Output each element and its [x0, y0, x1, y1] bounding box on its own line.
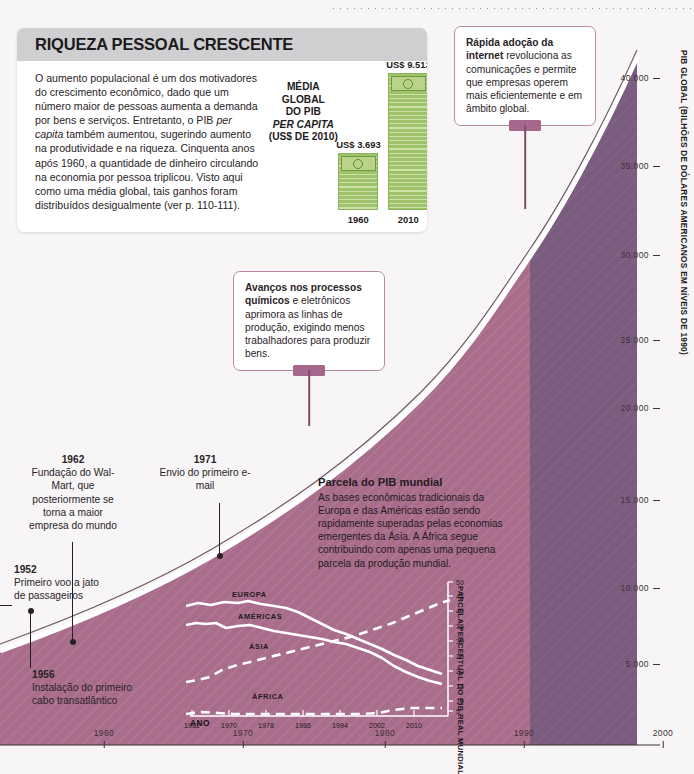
gdp-per-capita-bar-chart: MÉDIAGLOBALDO PIBPER CAPITA(US$ DE 2010)… — [258, 71, 415, 231]
bar-2010 — [388, 73, 427, 210]
inset-x-tick-2002: 2002 — [369, 721, 385, 730]
series-line-americas — [186, 623, 442, 684]
event-text: Envio do primeiro e-mail — [159, 467, 250, 491]
callout-chemical-text: Avanços nos processos químicos e eletrôn… — [245, 282, 370, 359]
callout-stem — [524, 125, 526, 209]
bar-chart-caption: MÉDIAGLOBALDO PIBPER CAPITA(US$ DE 2010) — [260, 81, 346, 144]
callout-stem — [308, 370, 310, 426]
inset-x-tick-1978: 1978 — [258, 721, 274, 730]
wealth-card: RIQUEZA PESSOAL CRESCENTE O aumento popu… — [17, 28, 427, 232]
inset-y-tick-50: 50 — [456, 579, 464, 586]
bar-label-2010: 2010 — [386, 214, 427, 225]
x-tick-1990: 1990 — [514, 728, 535, 748]
series-label-europa: EUROPA — [232, 590, 267, 599]
event-1956: 1956 Instalação do primeiro cabo transat… — [32, 668, 142, 708]
y-tick-30000: 30.000 — [621, 250, 660, 260]
inset-chart-svg — [186, 578, 486, 738]
event-text: Instalação do primeiro cabo transatlânti… — [32, 682, 132, 706]
inset-x-tick-1994: 1994 — [332, 721, 348, 730]
y-tick-10000: 10.000 — [621, 583, 660, 593]
series-label-americas: AMÉRICAS — [238, 612, 282, 621]
bar-label-1960: 1960 — [336, 214, 380, 225]
callout-chemical-processes: Avanços nos processos químicos e eletrôn… — [233, 271, 385, 371]
bar-value-1960: US$ 3.693 — [336, 139, 380, 150]
wealth-card-header: RIQUEZA PESSOAL CRESCENTE — [17, 28, 427, 61]
series-line-africa — [186, 708, 442, 714]
y-tick-40000: 40.000 — [621, 73, 660, 83]
y-tick-5000: 5.000 — [626, 659, 660, 669]
series-label-africa: ÁFRICA — [252, 692, 284, 701]
event-leader-line — [30, 611, 31, 668]
inset-chart-heading: Parcela do PIB mundial — [318, 476, 508, 489]
y-tick-20000: 20.000 — [621, 403, 660, 413]
event-1971: 1971 Envio do primeiro e-mail — [157, 453, 253, 493]
main-y-axis: 40.000 35.000 30.000 25.000 20.000 15.00… — [602, 0, 660, 745]
bar-value-2010: US$ 9.513 — [386, 59, 427, 70]
world-gdp-share-chart: EUROPA AMÉRICAS ÁSIA ÁFRICA 50 45 40 35 … — [186, 578, 486, 738]
callout-internet: Rápida adoção da internet revoluciona as… — [454, 26, 596, 126]
event-1962: 1962 Fundação do Wal-Mart, que posterior… — [22, 453, 124, 532]
banknote-icon — [391, 76, 426, 91]
event-leader-line — [219, 503, 220, 556]
inset-y-axis-title: PARCELA PERCENTUAL DO PIB REAL MUNDIAL — [454, 586, 466, 774]
inset-chart-intro: Parcela do PIB mundial As bases econômic… — [318, 476, 508, 570]
y-tick-25000: 25.000 — [621, 335, 660, 345]
banknote-icon — [341, 156, 376, 171]
series-line-asia — [186, 600, 450, 682]
inset-x-tick-1986: 1986 — [295, 721, 311, 730]
inset-x-tick-2010: 2010 — [406, 721, 422, 730]
page-title: RIQUEZA PESSOAL CRESCENTE — [35, 35, 293, 54]
y-tick-15000: 15.000 — [621, 495, 660, 505]
event-year: 1962 — [22, 453, 124, 466]
inset-x-axis-title: ANO — [190, 718, 210, 728]
inset-chart-description: As bases econômicas tradicionais da Euro… — [318, 492, 503, 568]
inset-x-tick-1970: 1970 — [221, 721, 237, 730]
event-1952: 1952 Primeiro voo a jato de passageiros — [14, 563, 110, 603]
series-label-asia: ÁSIA — [249, 642, 269, 651]
y-tick-35000: 35.000 — [621, 161, 660, 171]
callout-internet-text: Rápida adoção da internet revoluciona as… — [466, 37, 582, 114]
event-leader-line — [0, 605, 12, 606]
inset-x-ticks — [192, 710, 414, 716]
event-text: Fundação do Wal-Mart, que posteriormente… — [29, 467, 117, 531]
x-tick-1960: 1960 — [94, 728, 115, 748]
event-text: Primeiro voo a jato de passageiros — [14, 577, 99, 601]
wealth-card-text: O aumento populacional é um dos motivado… — [35, 71, 258, 231]
event-year: 1971 — [157, 453, 253, 466]
infographic-page: 40.000 35.000 30.000 25.000 20.000 15.00… — [0, 0, 694, 774]
top-dotted-rule — [330, 7, 694, 10]
event-year: 1956 — [32, 668, 142, 681]
bar-group-1960: US$ 3.693 1960 — [336, 139, 380, 225]
main-y-axis-title: PIB GLOBAL (BILHÕES DE DÓLARES AMERICANO… — [677, 50, 691, 355]
bar-1960 — [338, 153, 378, 210]
event-year: 1952 — [14, 563, 110, 576]
bar-group-2010: US$ 9.513 2010 — [386, 59, 427, 225]
x-tick-2000: 2000 — [653, 728, 674, 748]
